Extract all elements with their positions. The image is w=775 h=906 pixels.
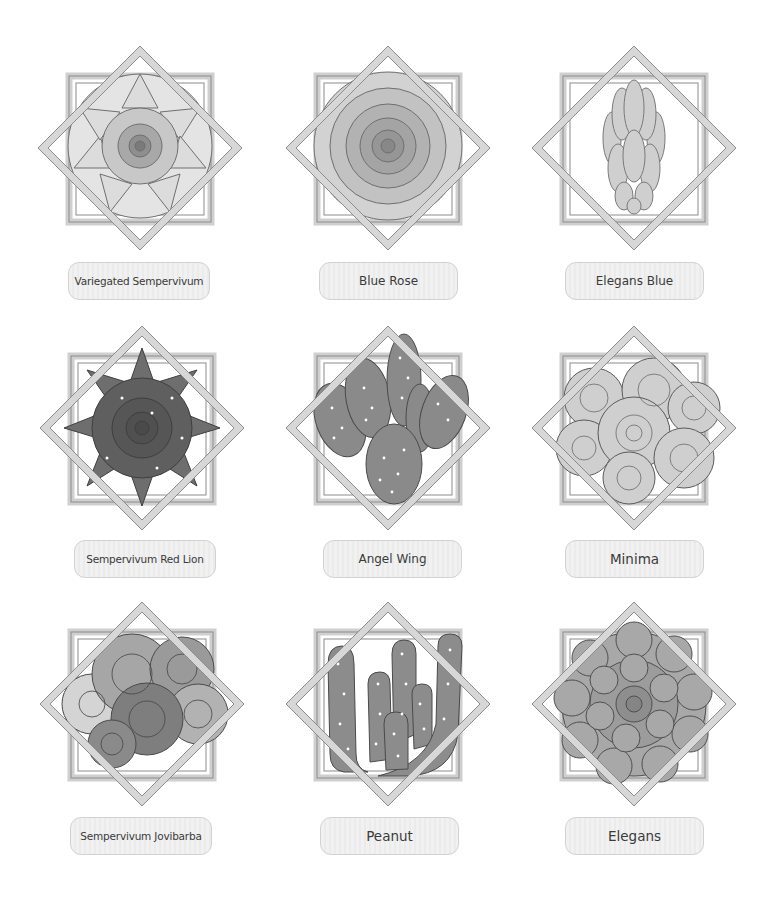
sempervivum-jovibarba-illustration: [22, 584, 262, 824]
label-blue-rose[interactable]: Blue Rose: [319, 262, 458, 300]
label-sempervivum-jovibarba[interactable]: Sempervivum Jovibarba: [70, 817, 212, 855]
succulent-card-minima: Minima: [514, 308, 754, 578]
label-sempervivum-red-lion[interactable]: Sempervivum Red Lion: [74, 540, 216, 578]
blue-rose-illustration: [268, 28, 508, 268]
elegans-blue-illustration: [514, 28, 754, 268]
succulent-card-angel-wing: Angel Wing: [268, 308, 508, 578]
peanut-illustration: [268, 584, 508, 824]
variegated-sempervivum-illustration: [20, 28, 260, 268]
label-variegated-sempervivum[interactable]: Variegated Sempervivum: [68, 262, 210, 300]
label-elegans[interactable]: Elegans: [565, 817, 704, 855]
elegans-illustration: [514, 584, 754, 824]
label-elegans-blue[interactable]: Elegans Blue: [565, 262, 704, 300]
succulent-card-elegans-blue: Elegans Blue: [514, 28, 754, 298]
succulent-card-elegans: Elegans: [514, 584, 754, 854]
succulent-card-sempervivum-jovibarba: Sempervivum Jovibarba: [22, 584, 262, 854]
sempervivum-red-lion-illustration: [22, 308, 262, 548]
succulent-card-blue-rose: Blue Rose: [268, 28, 508, 298]
minima-illustration: [514, 308, 754, 548]
label-angel-wing[interactable]: Angel Wing: [323, 540, 462, 578]
succulent-card-variegated-sempervivum: Variegated Sempervivum: [20, 28, 260, 298]
label-peanut[interactable]: Peanut: [320, 817, 459, 855]
label-minima[interactable]: Minima: [565, 540, 704, 578]
angel-wing-illustration: [268, 308, 508, 548]
succulent-card-sempervivum-red-lion: Sempervivum Red Lion: [22, 308, 262, 578]
succulent-card-peanut: Peanut: [268, 584, 508, 854]
